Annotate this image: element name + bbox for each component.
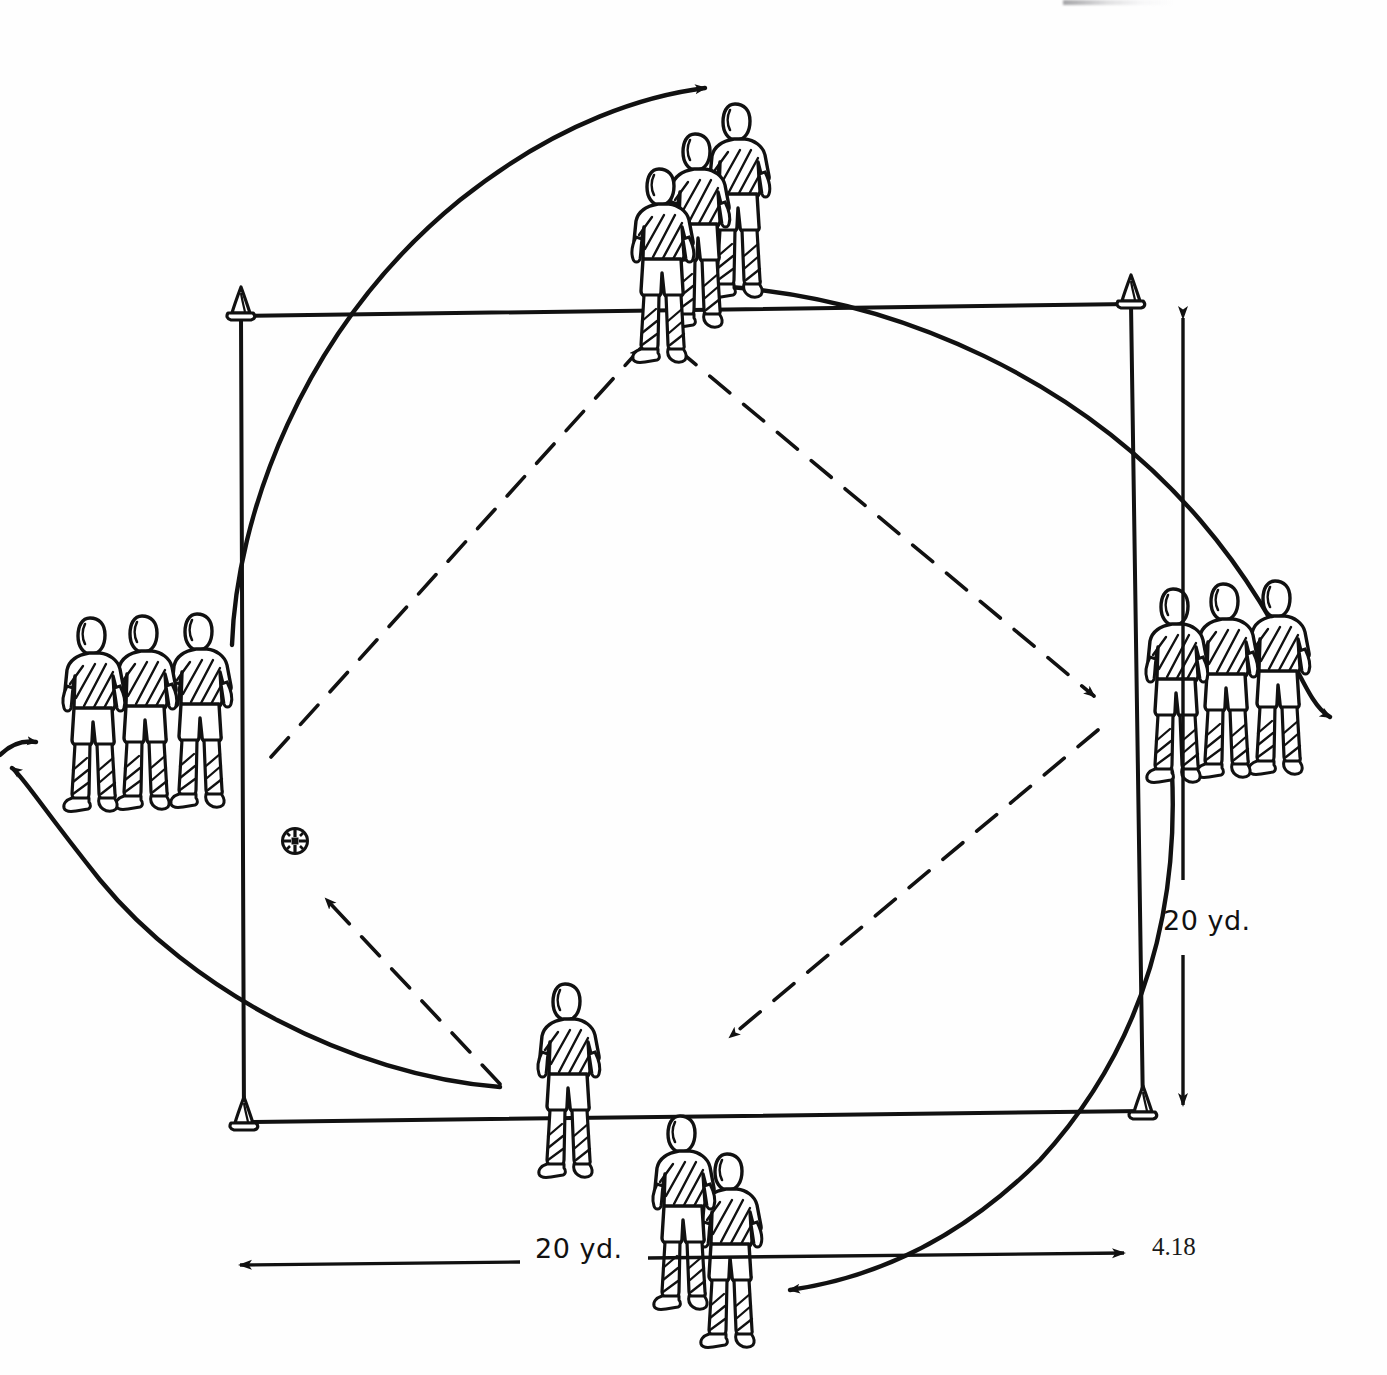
right-group: [1146, 581, 1310, 782]
grid-square: [241, 304, 1143, 1122]
drill-diagram: [0, 0, 1387, 1375]
run-left-to-top: [232, 88, 705, 645]
pass-bottom-to-left: [326, 899, 500, 1084]
pass-top-to-right: [676, 348, 1094, 696]
figure-canvas: 20 yd. 20 yd. 4.18: [0, 0, 1387, 1375]
cone-bottom-left: [230, 1097, 258, 1130]
cone-top-left: [227, 287, 255, 320]
dimension-width-label: 20 yd.: [535, 1233, 623, 1264]
run-bottom-to-left-tail: [0, 742, 36, 755]
dimension-width: [240, 1253, 1124, 1265]
bottom-group: [538, 984, 762, 1347]
figure-number-label: 4.18: [1152, 1233, 1196, 1261]
dimension-width-arrow-left: [240, 1262, 520, 1265]
player-right-1: [1146, 589, 1208, 782]
pass-lines: [271, 348, 1098, 1084]
pass-bottom-left-to-top: [271, 349, 640, 757]
player-left-1: [63, 618, 125, 811]
cone-top-right: [1117, 275, 1145, 308]
run-bottom-to-left: [12, 768, 500, 1087]
player-left-2: [115, 616, 177, 809]
dimension-height-label: 20 yd.: [1163, 905, 1251, 936]
player-left-3: [170, 614, 232, 807]
pass-right-to-bottom: [730, 730, 1098, 1037]
top-group: [632, 104, 770, 362]
run-right-to-bottom: [790, 772, 1173, 1290]
left-group: [63, 614, 232, 811]
cone-bottom-right: [1129, 1086, 1157, 1119]
soccer-ball: [281, 827, 309, 855]
player-bottom-1: [538, 984, 600, 1177]
